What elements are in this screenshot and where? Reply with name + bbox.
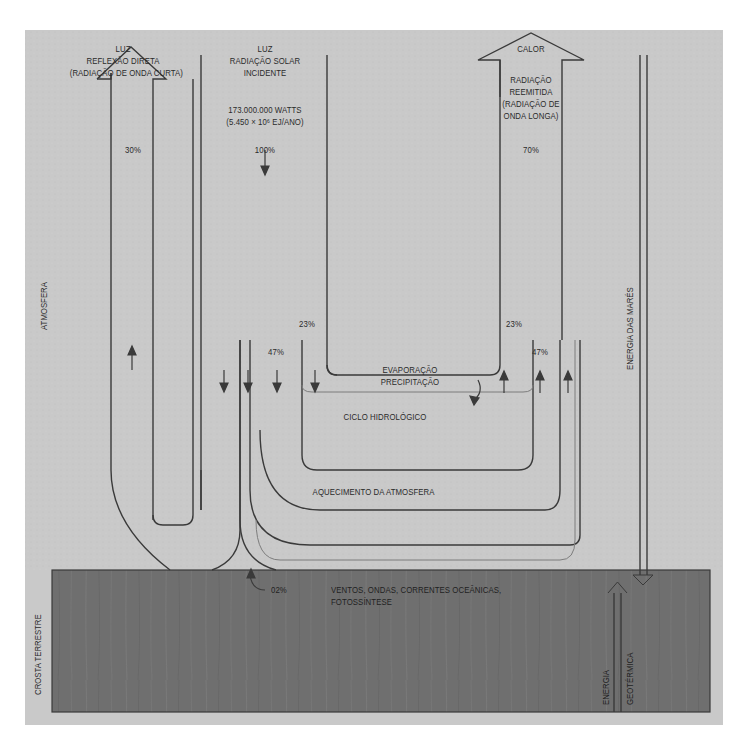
hydro-left-percent: 23%: [291, 318, 324, 330]
atmosphere-heating-label: AQUECIMENTO DA ATMOSFERA: [313, 486, 428, 498]
reflection-label-1: LUZ: [70, 43, 177, 55]
crust-label: CROSTA TERRESTRE: [32, 614, 43, 695]
heat-description: RADIAÇÃO REEMITIDA (RADIAÇÃO DE ONDA LON…: [498, 74, 564, 122]
tidal-energy-label: ENERGIA DAS MARÉS: [624, 287, 635, 370]
heat-label-2: REEMITIDA: [498, 86, 564, 98]
incident-label-1: LUZ: [216, 43, 314, 55]
winds-description: VENTOS, ONDAS, CORRENTES OCEÂNICAS, FOTO…: [331, 584, 501, 608]
evaporation-text: EVAPORAÇÃO: [369, 364, 451, 376]
heating-left-percent: 47%: [260, 346, 293, 358]
winds-label-1: VENTOS, ONDAS, CORRENTES OCEÂNICAS,: [331, 584, 501, 596]
geothermal-label-2: GEOTÉRMICA: [624, 653, 635, 705]
incident-label-3: INCIDENTE: [216, 67, 314, 79]
evaporation-label: EVAPORAÇÃO PRECIPITAÇÃO: [369, 364, 451, 388]
reflection-label-3: (RADIAÇÃO DE ONDA CURTA): [70, 67, 177, 79]
precipitation-text: PRECIPITAÇÃO: [369, 376, 451, 388]
reflection-percent: 30%: [117, 144, 150, 156]
heat-label-1: RADIAÇÃO: [498, 74, 564, 86]
heating-right-percent: 47%: [524, 346, 557, 358]
incident-percent: 100%: [249, 144, 282, 156]
geothermal-label-1: ENERGIA: [600, 670, 611, 705]
incident-label-2: RADIAÇÃO SOLAR: [216, 55, 314, 67]
reflection-title: LUZ REFLEXÃO DIRETA (RADIAÇÃO DE ONDA CU…: [70, 43, 177, 79]
hydro-right-percent: 23%: [498, 318, 531, 330]
incident-watts: 173.000.000 WATTS (5.450 × 10⁶ EJ/ANO): [216, 104, 314, 128]
heat-percent: 70%: [515, 144, 548, 156]
winds-label-2: FOTOSSÍNTESE: [331, 596, 501, 608]
incident-title: LUZ RADIAÇÃO SOLAR INCIDENTE: [216, 43, 314, 79]
incident-watts-value: 173.000.000 WATTS: [216, 104, 314, 116]
winds-percent: 02%: [271, 584, 287, 596]
reflection-label-2: REFLEXÃO DIRETA: [70, 55, 177, 67]
hydro-cycle-label: CICLO HIDROLÓGICO: [336, 411, 434, 423]
atmosphere-label: ATMOSFERA: [38, 282, 49, 330]
incident-ej-value: (5.450 × 10⁶ EJ/ANO): [216, 116, 314, 128]
heat-title: CALOR: [511, 43, 552, 55]
heat-label-4: ONDA LONGA): [498, 110, 564, 122]
heat-label-3: (RADIAÇÃO DE: [498, 98, 564, 110]
